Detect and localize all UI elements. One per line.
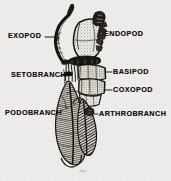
figure-caption (0, 173, 171, 181)
label-setobranch: SETOBRANCH (11, 71, 66, 78)
label-podobranch: PODOBRANCH (5, 109, 62, 116)
label-arthrobranch: ARTHROBRANCH (99, 110, 166, 117)
label-exopod: EXOPOD (8, 32, 41, 39)
figure-container: EXOPOD ENDOPOD SETOBRANCH BASIPOD COXOPO… (0, 0, 171, 181)
label-endopod: ENDOPOD (104, 30, 144, 37)
label-coxopod: COXOPOD (113, 86, 153, 93)
label-layer: EXOPOD ENDOPOD SETOBRANCH BASIPOD COXOPO… (0, 0, 171, 181)
label-basipod: BASIPOD (113, 68, 149, 75)
